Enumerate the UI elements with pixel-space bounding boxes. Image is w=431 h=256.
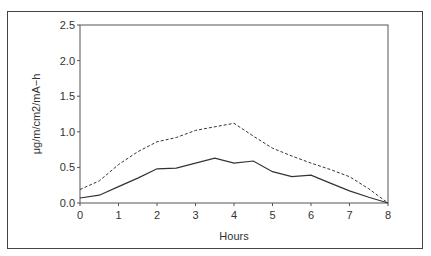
- y-axis-title: μg/m/cm2/mA−h: [30, 74, 42, 155]
- x-tick-label: 1: [115, 209, 121, 221]
- line-chart: 0.00.51.01.52.02.5 012345678 Hours μg/m/…: [0, 0, 431, 256]
- x-axis: 012345678: [77, 203, 391, 221]
- plot-area: [80, 25, 388, 203]
- x-tick-label: 0: [77, 209, 83, 221]
- y-tick-label: 0.5: [60, 161, 75, 173]
- y-tick-label: 2.5: [60, 19, 75, 31]
- x-axis-title: Hours: [219, 230, 249, 242]
- y-tick-label: 1.5: [60, 90, 75, 102]
- y-axis: 0.00.51.01.52.02.5: [60, 19, 80, 209]
- y-tick-label: 2.0: [60, 55, 75, 67]
- x-tick-label: 2: [154, 209, 160, 221]
- x-tick-label: 3: [192, 209, 198, 221]
- x-tick-label: 4: [231, 209, 237, 221]
- y-tick-label: 1.0: [60, 126, 75, 138]
- y-tick-label: 0.0: [60, 197, 75, 209]
- x-tick-label: 5: [269, 209, 275, 221]
- x-tick-label: 8: [385, 209, 391, 221]
- solid-series-line: [80, 158, 388, 203]
- x-tick-label: 6: [308, 209, 314, 221]
- x-tick-label: 7: [346, 209, 352, 221]
